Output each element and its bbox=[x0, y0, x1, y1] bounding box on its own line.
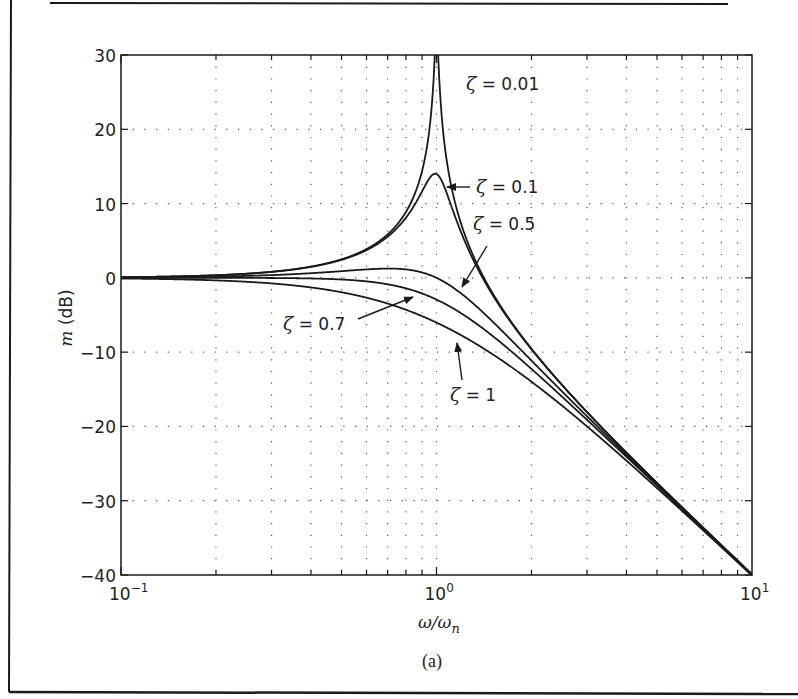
axis-ticks bbox=[121, 55, 752, 575]
figure-caption: (a) bbox=[422, 651, 442, 672]
annotation-arrow-icon bbox=[457, 343, 462, 380]
x-tick-label: 101 bbox=[740, 581, 769, 604]
x-tick-label: 10−1 bbox=[109, 581, 148, 604]
frame-left-border bbox=[9, 0, 11, 692]
y-tick-label: 10 bbox=[94, 195, 116, 215]
x-tick-label: 100 bbox=[425, 581, 454, 604]
curve-0_1 bbox=[121, 174, 752, 575]
annotation-label: ζ = 1 bbox=[450, 383, 496, 405]
curve-0_5 bbox=[121, 269, 752, 575]
plot-area bbox=[121, 55, 752, 575]
annotation-label: ζ = 0.1 bbox=[476, 175, 538, 197]
y-axis-label: m (dB) bbox=[56, 289, 76, 346]
curve-1 bbox=[121, 279, 752, 576]
x-tick-labels: 10−1100101 bbox=[109, 581, 769, 604]
y-tick-label: 20 bbox=[94, 120, 116, 140]
y-tick-label: 0 bbox=[105, 269, 116, 289]
y-tick-label: −20 bbox=[80, 417, 116, 437]
annotation-arrow-icon bbox=[358, 297, 413, 319]
x-axis-label: ω/ωn bbox=[418, 612, 460, 636]
curve-annotations: ζ = 0.01ζ = 0.1ζ = 0.5ζ = 0.7ζ = 1 bbox=[283, 72, 539, 405]
curve-0_01 bbox=[121, 40, 752, 574]
frame-bottom-border bbox=[9, 692, 798, 694]
y-tick-labels: 3020100−10−20−30−40 bbox=[80, 46, 116, 586]
annotation-label: ζ = 0.7 bbox=[283, 312, 345, 334]
y-tick-label: −40 bbox=[80, 566, 116, 586]
y-tick-label: 30 bbox=[94, 46, 116, 66]
y-tick-label: −30 bbox=[80, 492, 116, 512]
bode-magnitude-chart: 3020100−10−20−30−40 10−1100101 ζ = 0.01ζ… bbox=[0, 0, 798, 699]
y-tick-label: −10 bbox=[80, 343, 116, 363]
annotation-label: ζ = 0.01 bbox=[466, 72, 539, 94]
grid-lines bbox=[121, 55, 752, 575]
curves bbox=[121, 40, 752, 576]
annotation-label: ζ = 0.5 bbox=[473, 212, 535, 234]
frame-top-rule bbox=[50, 3, 728, 4]
